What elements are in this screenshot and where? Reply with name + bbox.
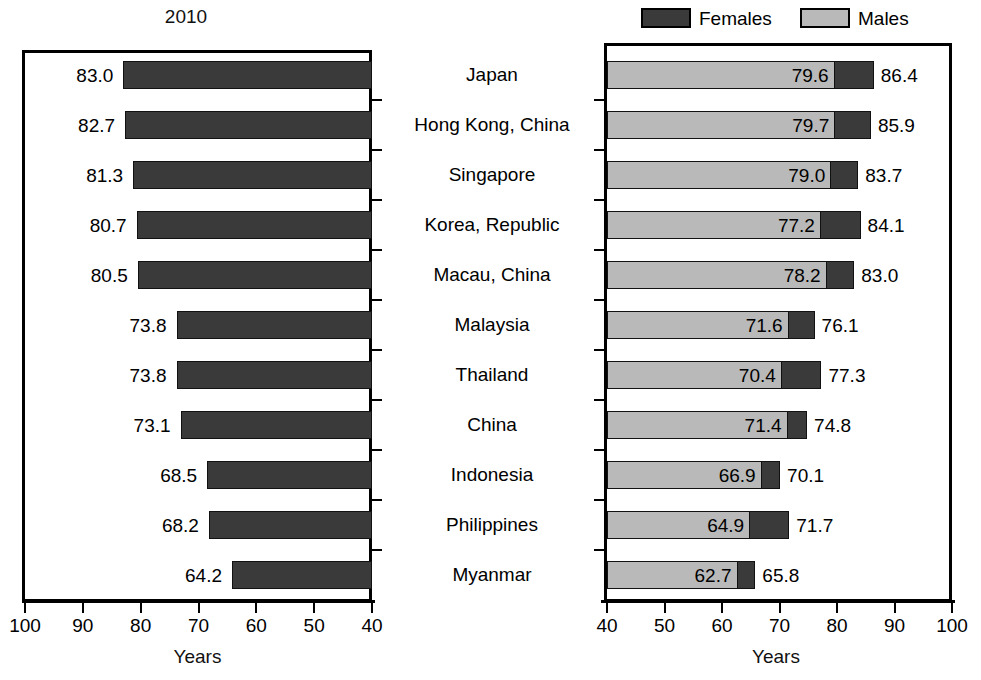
left-chart-bar-value-label: 73.8 [105, 365, 167, 387]
right-chart-tick [836, 602, 838, 613]
right-chart-males-value-label: 62.7 [676, 565, 732, 587]
right-chart-total-value-label: 76.1 [822, 315, 859, 337]
left-chart-tick-label: 80 [118, 615, 164, 637]
right-chart-total-value-label: 83.7 [865, 165, 902, 187]
left-chart-bar [123, 61, 372, 89]
country-label: China [386, 415, 598, 435]
left-chart-category-tick [372, 349, 382, 351]
left-chart-bar-value-label: 80.7 [65, 215, 127, 237]
left-chart-tick [82, 602, 84, 613]
right-chart-total-value-label: 83.0 [861, 265, 898, 287]
right-chart-category-tick [594, 449, 604, 451]
left-chart-tick [371, 602, 373, 613]
left-chart-bar [138, 261, 372, 289]
legend-swatch-males [800, 8, 850, 28]
left-chart-bar [133, 161, 372, 189]
right-chart-males-value-label: 77.2 [759, 215, 815, 237]
right-chart-tick [894, 602, 896, 613]
left-chart-category-tick [372, 449, 382, 451]
left-chart-bar-value-label: 64.2 [160, 565, 222, 587]
left-chart-category-tick [372, 399, 382, 401]
right-chart-total-value-label: 85.9 [878, 115, 915, 137]
right-chart-males-value-label: 71.4 [726, 415, 782, 437]
left-chart-tick [140, 602, 142, 613]
country-label: Thailand [386, 365, 598, 385]
left-chart-tick-label: 40 [349, 615, 395, 637]
right-chart-males-value-label: 79.6 [773, 65, 829, 87]
left-chart-bar-value-label: 68.2 [137, 515, 199, 537]
left-chart-bar-value-label: 73.8 [105, 315, 167, 337]
left-chart-bar [181, 411, 372, 439]
right-chart-total-value-label: 71.7 [796, 515, 833, 537]
right-chart-tick-label: 60 [699, 615, 745, 637]
left-chart-bar [207, 461, 372, 489]
legend: FemalesMales [604, 4, 954, 38]
right-chart-males-value-label: 79.0 [769, 165, 825, 187]
right-chart-tick-label: 70 [757, 615, 803, 637]
country-label: Myanmar [386, 565, 598, 585]
right-chart-tick-label: 40 [584, 615, 630, 637]
left-chart-bar [232, 561, 372, 589]
left-chart-tick [198, 602, 200, 613]
left-chart-bar-value-label: 81.3 [61, 165, 123, 187]
right-chart-males-value-label: 70.4 [720, 365, 776, 387]
left-chart-bar-value-label: 73.1 [109, 415, 171, 437]
right-chart-tick-label: 50 [642, 615, 688, 637]
left-chart-category-tick [372, 549, 382, 551]
right-chart-total-value-label: 77.3 [828, 365, 865, 387]
figure-container: 2010 100908070605040 Years 83.082.781.38… [0, 0, 981, 680]
left-chart-tick [24, 602, 26, 613]
left-chart-category-tick [372, 249, 382, 251]
right-chart-males-value-label: 71.6 [727, 315, 783, 337]
right-chart-total-value-label: 74.8 [814, 415, 851, 437]
legend-label-males: Males [858, 8, 909, 29]
left-chart-tick-label: 60 [233, 615, 279, 637]
country-label: Japan [386, 65, 598, 85]
left-chart-bar-value-label: 83.0 [51, 65, 113, 87]
right-chart-category-tick [594, 199, 604, 201]
country-label: Singapore [386, 165, 598, 185]
left-chart-category-tick [372, 299, 382, 301]
country-label: Korea, Republic [386, 215, 598, 235]
left-chart-bar-value-label: 82.7 [53, 115, 115, 137]
right-chart-tick [664, 602, 666, 613]
right-chart-total-value-label: 84.1 [868, 215, 905, 237]
left-chart-tick-label: 50 [291, 615, 337, 637]
country-label: Malaysia [386, 315, 598, 335]
right-chart-category-tick [594, 99, 604, 101]
right-chart-category-tick [594, 549, 604, 551]
left-chart-category-tick [372, 199, 382, 201]
country-label: Indonesia [386, 465, 598, 485]
right-chart-tick [721, 602, 723, 613]
left-chart-tick [313, 602, 315, 613]
left-chart-bar [177, 311, 372, 339]
left-chart-category-tick [372, 499, 382, 501]
right-chart-males-value-label: 79.7 [773, 115, 829, 137]
left-chart-bar [177, 361, 372, 389]
left-chart-bar-value-label: 80.5 [66, 265, 128, 287]
left-chart-tick-label: 100 [2, 615, 48, 637]
left-chart-tick-label: 70 [176, 615, 222, 637]
left-chart-bar [209, 511, 372, 539]
left-chart-category-tick [372, 149, 382, 151]
left-chart-bar [137, 211, 372, 239]
right-chart-total-value-label: 86.4 [881, 65, 918, 87]
legend-swatch-females [641, 8, 691, 28]
right-chart-tick [951, 602, 953, 613]
right-chart-tick-label: 90 [872, 615, 918, 637]
right-chart-x-axis-label: Years [590, 647, 962, 666]
right-chart-total-value-label: 65.8 [762, 565, 799, 587]
left-chart-tick [255, 602, 257, 613]
right-chart-category-tick [594, 249, 604, 251]
left-chart-bar [125, 111, 372, 139]
right-chart-males-value-label: 64.9 [688, 515, 744, 537]
country-label: Hong Kong, China [386, 115, 598, 135]
left-chart-category-tick [372, 99, 382, 101]
country-label: Philippines [386, 515, 598, 535]
right-chart-males-value-label: 66.9 [700, 465, 756, 487]
left-chart-x-axis-label: Years [0, 647, 395, 666]
right-chart-category-tick [594, 499, 604, 501]
left-chart-tick-label: 90 [60, 615, 106, 637]
right-chart-category-tick [594, 149, 604, 151]
right-chart-category-tick [594, 399, 604, 401]
